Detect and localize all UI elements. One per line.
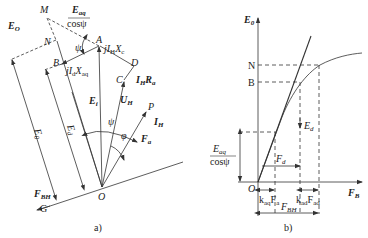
label-kadfad: kadFad [296,194,320,207]
origin-o: O [248,183,255,194]
label-eaq-num-b: Eaq [212,143,227,156]
saturation-curve [258,53,362,182]
label-psi-mid: ψ [108,116,115,127]
label-fa: Fa [140,133,152,146]
tick-b: B [248,77,255,88]
point-n: N [43,36,52,47]
label-e0-top: EO [7,20,20,33]
label-ed: Ed [303,120,314,133]
phasor-diagram-figure: M EO Eaq cosψ N ψ A jIHXc B jIdXaq D C I… [0,0,368,238]
dim-e0 [12,60,55,196]
label-ei: Ei [88,95,98,108]
label-jihxc: jIHXc [102,43,124,56]
panel-b-characteristic [238,18,362,216]
label-phi: φ [121,130,127,141]
label-psi-top: ψ [75,42,82,53]
phasor-ihra [124,66,134,80]
label-ih: IH [153,116,164,129]
label-eaq-den: cosψ [67,18,87,29]
label-kaqfa: kaqFa [259,194,280,207]
label-ihra: IHRa [135,74,156,87]
point-o: O [98,191,105,202]
point-d: D [130,57,139,68]
x-axis-label: FB [347,187,360,200]
label-fbh: FBH [33,188,51,201]
point-b: B [53,57,59,68]
label-eaq-num: Eaq [71,4,86,17]
point-p: P [147,101,154,112]
point-g: G [40,203,47,214]
phasor-ei [99,47,102,187]
label-eaq-den-b: cosψ [210,156,230,167]
tick-n: N [248,60,255,71]
panel-b-labels: E0 N B Ed Eaq cosψ Fd O FB kaqFa kadFad … [210,14,360,234]
arc-psi-top [82,38,85,54]
y-axis-label: E0 [243,14,255,27]
label-fd: Fd [275,153,286,166]
point-a: A [95,34,103,45]
caption-a: a) [94,222,102,234]
caption-b: b) [284,222,292,234]
point-m: M [39,4,49,15]
label-uh: UH [120,94,133,107]
label-fbh-b: FBH [280,201,297,214]
reference-line-og [38,162,183,210]
label-e0-side: E0 [30,126,46,141]
panel-a-phasor-diagram [10,18,183,210]
point-c: C [116,74,123,85]
